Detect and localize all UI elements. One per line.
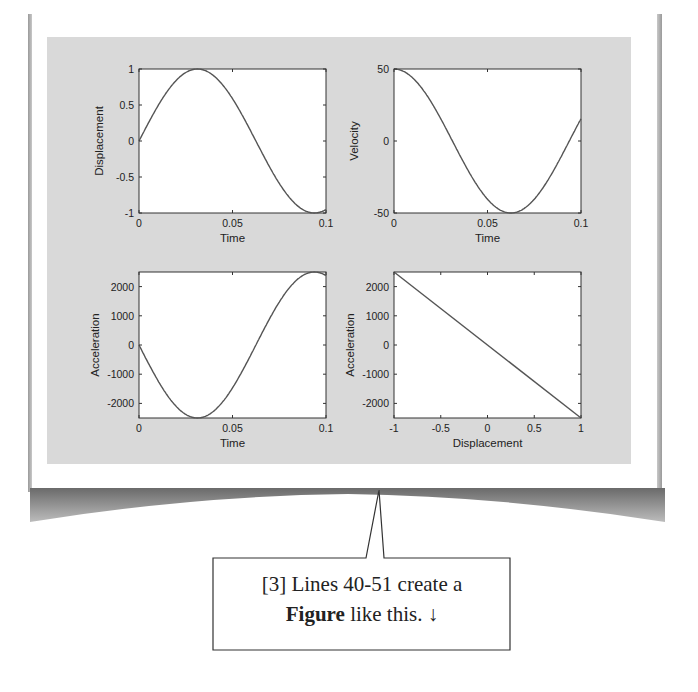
callout-line-1: [3] Lines 40-51 create a: [214, 569, 510, 599]
callout-line-2-rest: like this.: [345, 602, 423, 626]
callout-bold-word: Figure: [286, 602, 345, 626]
callout-line-2: Figure like this. ↓: [214, 599, 510, 629]
down-arrow-icon: ↓: [428, 602, 439, 626]
callout-text: [3] Lines 40-51 create a Figure like thi…: [214, 569, 510, 629]
